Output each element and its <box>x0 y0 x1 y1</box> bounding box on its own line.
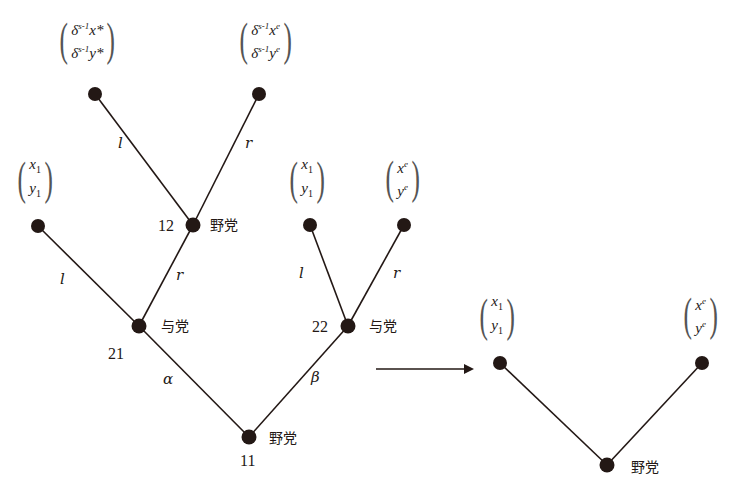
edge-label-21-l: l <box>60 272 65 287</box>
decision-node-12 <box>186 218 201 233</box>
decision-node-22 <box>341 319 356 334</box>
edge-beta <box>249 326 348 437</box>
payoff-vector-right-left: ( x1 y1 ) <box>476 292 518 340</box>
terminal-node <box>695 356 709 370</box>
edge-label-beta: β <box>311 370 320 385</box>
node-number-21: 21 <box>108 346 124 362</box>
terminal-node <box>252 87 266 101</box>
edge-label-21-r: r <box>176 268 183 283</box>
terminal-node <box>31 219 45 233</box>
player-label-12: 野党 <box>210 218 238 232</box>
payoff-vector-21-l: ( x1 y1 ) <box>14 155 56 203</box>
edge-21-r <box>139 225 193 326</box>
edge-right-right <box>607 363 702 465</box>
edge-12-r <box>193 94 259 225</box>
decision-node-21 <box>132 319 147 334</box>
payoff-vector-22-l: ( x1 y1 ) <box>286 155 328 203</box>
decision-node-right-root <box>600 458 615 473</box>
edge-alpha <box>139 326 249 437</box>
node-number-12: 12 <box>158 218 174 234</box>
edge-label-22-r: r <box>393 266 400 281</box>
edge-label-22-l: l <box>299 266 304 281</box>
edge-label-12-r: r <box>245 136 252 151</box>
payoff-vector-22-r: ( xe ye ) <box>382 155 423 201</box>
terminal-node <box>88 87 102 101</box>
payoff-vector-12-r: ( δs-1xe δs-1ye ) <box>236 17 295 63</box>
player-label-21: 与党 <box>161 319 189 333</box>
node-number-11: 11 <box>240 453 255 469</box>
edge-22-l <box>310 225 348 326</box>
terminal-node <box>303 218 317 232</box>
player-label-22: 与党 <box>369 319 397 333</box>
edge-12-l <box>95 94 193 225</box>
edge-right-left <box>500 363 607 465</box>
terminal-node <box>493 356 507 370</box>
edge-21-l <box>38 226 139 326</box>
decision-node-11 <box>242 430 257 445</box>
edge-label-12-l: l <box>118 136 123 151</box>
player-label-11: 野党 <box>269 431 297 445</box>
terminal-node <box>397 218 411 232</box>
payoff-vector-right-right: ( xe ye ) <box>680 292 721 338</box>
node-number-22: 22 <box>312 319 328 335</box>
arrow-head-icon <box>464 364 474 374</box>
player-label-right-root: 野党 <box>631 460 659 474</box>
payoff-vector-12-l: ( δs-1x* δs-1y* ) <box>56 17 119 63</box>
game-tree-graphic <box>0 0 729 502</box>
edge-label-alpha: α <box>163 372 173 387</box>
